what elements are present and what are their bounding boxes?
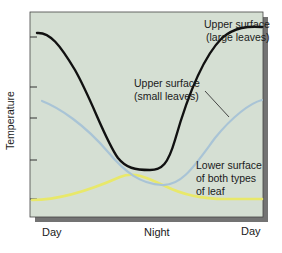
label-lower-surface-line3: of leaf <box>196 185 225 197</box>
x-label-day-left: Day <box>42 226 62 238</box>
label-large-leaves-line1: Upper surface <box>204 18 270 30</box>
x-label-night: Night <box>144 226 170 238</box>
label-small-leaves-line2: (small leaves) <box>134 90 199 102</box>
label-lower-surface-line1: Lower surface <box>196 159 262 171</box>
leaf-temperature-chart: Upper surface (large leaves) Upper surfa… <box>0 0 282 253</box>
label-lower-surface-line2: of both types <box>196 172 256 184</box>
x-label-day-right: Day <box>241 225 261 237</box>
label-small-leaves-line1: Upper surface <box>134 77 200 89</box>
y-axis-label: Temperature <box>4 91 16 150</box>
label-large-leaves-line2: (large leaves) <box>206 31 270 43</box>
